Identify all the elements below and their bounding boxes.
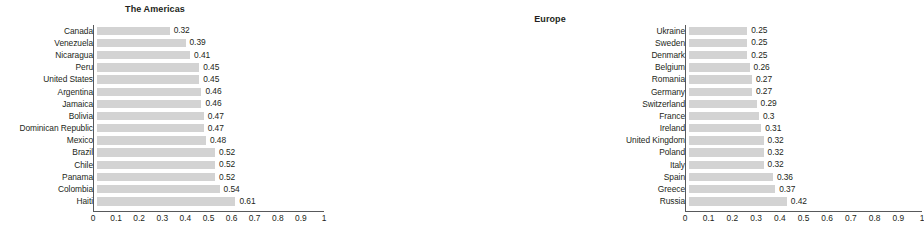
bar-value-label: 0.41 — [194, 51, 210, 60]
bar-value-label: 0.25 — [751, 26, 767, 35]
category-label: Romania — [592, 75, 689, 84]
category-label: Brazil — [0, 148, 97, 157]
bar-value-label: 0.29 — [761, 99, 777, 108]
bar-track: 0.27 — [689, 74, 922, 86]
bar-row: Russia0.42 — [592, 196, 922, 208]
category-label: Argentina — [0, 88, 97, 97]
bar-value-label: 0.42 — [791, 197, 807, 206]
x-axis-tick-label: 0.3 — [750, 213, 762, 223]
x-axis-tick-label: 0.2 — [133, 213, 145, 223]
bar-value-label: 0.27 — [756, 75, 772, 84]
bar — [689, 100, 757, 108]
category-label: Denmark — [592, 51, 689, 60]
bar-track: 0.46 — [97, 86, 324, 98]
category-label: United States — [0, 75, 97, 84]
bar-track: 0.45 — [97, 62, 324, 74]
bar-row: United States0.45 — [0, 74, 324, 86]
bar-row: United Kingdom0.32 — [592, 135, 922, 147]
bar-value-label: 0.25 — [751, 38, 767, 47]
chart-title-europe: Europe — [385, 14, 715, 24]
bar-value-label: 0.32 — [768, 136, 784, 145]
bar-value-label: 0.32 — [768, 148, 784, 157]
bar-rows-americas: Canada0.32Venezuela0.39Nicaragua0.41Peru… — [0, 25, 324, 208]
bar-row: Sweden0.25 — [592, 37, 922, 49]
bar-track: 0.52 — [97, 159, 324, 171]
x-axis-tick-label: 0.2 — [727, 213, 739, 223]
bar — [97, 51, 190, 59]
plot-area-europe: Ukraine0.25Sweden0.25Denmark0.25Belgium0… — [592, 25, 922, 211]
bar-value-label: 0.46 — [205, 99, 221, 108]
bar — [689, 161, 764, 169]
bar-value-label: 0.3 — [763, 112, 775, 121]
x-axis-tick-label: 0.7 — [845, 213, 857, 223]
x-axis-tick-label: 1 — [920, 213, 924, 223]
bar-track: 0.45 — [97, 74, 324, 86]
bar — [97, 63, 199, 71]
bar-track: 0.3 — [689, 110, 922, 122]
bar-value-label: 0.39 — [190, 38, 206, 47]
bar — [97, 112, 204, 120]
category-label: Venezuela — [0, 39, 97, 48]
bar-value-label: 0.27 — [756, 87, 772, 96]
bar-value-label: 0.31 — [765, 124, 781, 133]
bar-value-label: 0.52 — [219, 173, 235, 182]
bar-value-label: 0.25 — [751, 51, 767, 60]
bar-value-label: 0.47 — [208, 112, 224, 121]
category-label: Ireland — [592, 124, 689, 133]
bar — [689, 185, 775, 193]
bar — [689, 75, 752, 83]
bar — [97, 185, 220, 193]
x-axis-line-europe — [685, 211, 922, 212]
category-label: Dominican Republic — [0, 124, 97, 133]
bar-track: 0.37 — [689, 183, 922, 195]
category-label: Spain — [592, 173, 689, 182]
x-axis-tick-label: 0.1 — [110, 213, 122, 223]
bar — [97, 124, 204, 132]
x-axis-tick-label: 0.6 — [821, 213, 833, 223]
bar-row: Spain0.36 — [592, 171, 922, 183]
category-label: France — [592, 112, 689, 121]
x-axis-tick-label: 0.3 — [156, 213, 168, 223]
bar — [689, 112, 759, 120]
x-axis-ticks-americas: 00.10.20.30.40.50.60.70.80.91 — [0, 213, 324, 227]
bar-track: 0.27 — [689, 86, 922, 98]
bar-row: Ukraine0.25 — [592, 25, 922, 37]
bar-row: Belgium0.26 — [592, 62, 922, 74]
x-axis-tick-label: 0.1 — [703, 213, 715, 223]
x-axis-tick-label: 0.8 — [869, 213, 881, 223]
bar-track: 0.32 — [689, 147, 922, 159]
bar-track: 0.25 — [689, 25, 922, 37]
chart-title-americas: The Americas — [0, 4, 310, 14]
bar-row: Venezuela0.39 — [0, 37, 324, 49]
bar-value-label: 0.46 — [205, 87, 221, 96]
bar-track: 0.47 — [97, 123, 324, 135]
category-label: Sweden — [592, 39, 689, 48]
category-label: Greece — [592, 185, 689, 194]
bar-track: 0.32 — [689, 135, 922, 147]
category-label: Colombia — [0, 185, 97, 194]
bar-row: Chile0.52 — [0, 159, 324, 171]
x-axis-tick-label: 0.6 — [226, 213, 238, 223]
bar — [689, 39, 747, 47]
bar — [689, 27, 747, 35]
bar-row: Argentina0.46 — [0, 86, 324, 98]
bar — [689, 88, 752, 96]
bar-track: 0.25 — [689, 49, 922, 61]
bar-track: 0.32 — [97, 25, 324, 37]
bar — [689, 136, 764, 144]
bar-row: Poland0.32 — [592, 147, 922, 159]
bar — [689, 124, 761, 132]
x-axis-tick-label: 0.5 — [203, 213, 215, 223]
bar-value-label: 0.45 — [203, 63, 219, 72]
category-label: Mexico — [0, 136, 97, 145]
category-label: Bolivia — [0, 112, 97, 121]
plot-area-americas: Canada0.32Venezuela0.39Nicaragua0.41Peru… — [0, 25, 324, 211]
category-label: Panama — [0, 173, 97, 182]
bar-track: 0.46 — [97, 98, 324, 110]
bar-value-label: 0.47 — [208, 124, 224, 133]
bar-value-label: 0.61 — [239, 197, 255, 206]
category-label: Switzerland — [592, 100, 689, 109]
category-label: Canada — [0, 27, 97, 36]
bar-track: 0.47 — [97, 110, 324, 122]
category-label: Jamaica — [0, 100, 97, 109]
